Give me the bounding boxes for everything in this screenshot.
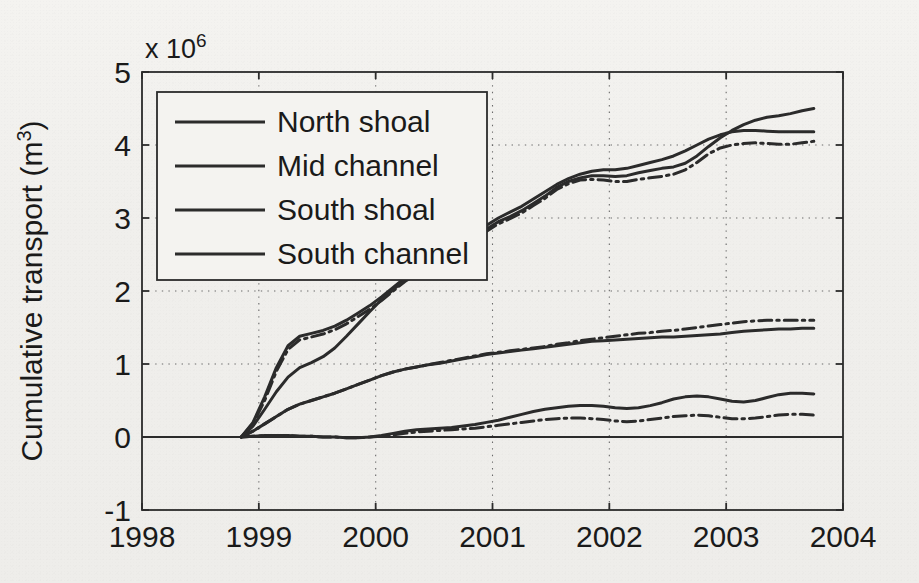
x-tick-label: 2002 [576,520,643,553]
y-tick-label: 3 [114,202,131,235]
series-line [241,414,813,437]
legend-label: North shoal [277,105,430,138]
legend-label: Mid channel [277,149,439,182]
x-tick-label: 1999 [225,520,292,553]
chart-legend: North shoalMid channelSouth shoalSouth c… [157,92,487,280]
y-tick-label: -1 [104,494,131,527]
y-tick-label: 1 [114,348,131,381]
y-axis-multiplier: x 106 [145,30,207,64]
legend-label: South channel [277,237,469,270]
legend-label: South shoal [277,193,435,226]
y-tick-label: 5 [114,56,131,89]
x-tick-label: 2000 [342,520,409,553]
x-tick-label: 2001 [459,520,526,553]
y-tick-label: 4 [114,129,131,162]
y-axis-title: Cumulative transport (m3) [13,120,48,461]
series-line [241,393,813,438]
x-tick-label: 2004 [810,520,877,553]
y-tick-label: 0 [114,421,131,454]
x-tick-label: 2003 [693,520,760,553]
cumulative-transport-chart: 1998199920002001200220032004-1012345x 10… [0,0,919,583]
y-tick-label: 2 [114,275,131,308]
